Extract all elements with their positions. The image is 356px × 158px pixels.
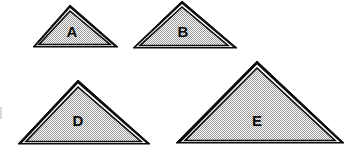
triangle-a-label: A — [67, 23, 78, 40]
triangle-d-label: D — [73, 112, 84, 129]
triangle-e-group[interactable]: E — [176, 61, 344, 143]
triangle-e-label: E — [252, 112, 262, 129]
triangle-d-fill — [26, 87, 141, 142]
scan-artifact-mark — [0, 107, 2, 119]
triangle-b-label: B — [178, 23, 189, 40]
triangle-d-group[interactable]: D — [18, 80, 150, 144]
triangles-diagram: A B D E — [0, 0, 356, 158]
figure-canvas: A B D E — [0, 0, 356, 158]
triangle-e-fill — [185, 68, 335, 141]
triangle-b-group[interactable]: B — [133, 1, 237, 48]
triangle-a-group[interactable]: A — [33, 5, 118, 47]
